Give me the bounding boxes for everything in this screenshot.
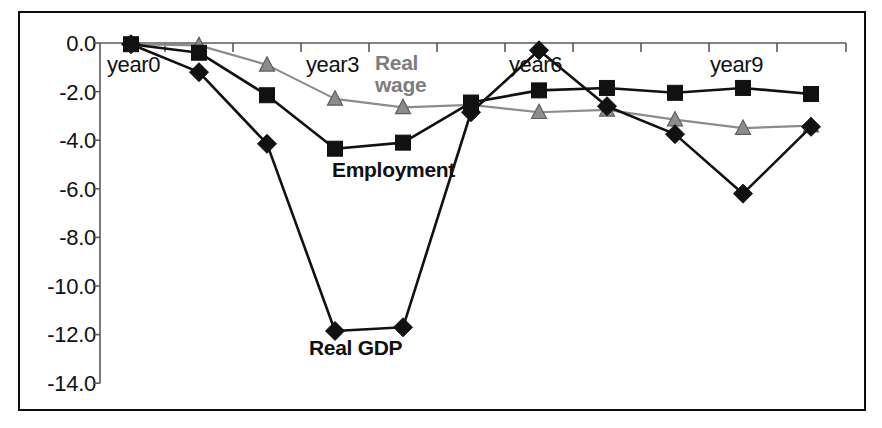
data-point-employment xyxy=(192,45,207,60)
data-point-real-gdp xyxy=(394,318,413,337)
data-point-employment xyxy=(600,80,615,95)
chart-figure: 0.0 -2.0 -4.0 -6.0 -8.0 -10.0 -12.0 -14.… xyxy=(0,0,882,428)
series-real-gdp xyxy=(122,35,821,341)
data-point-real-wage xyxy=(328,91,343,105)
data-point-employment xyxy=(396,135,411,150)
data-point-employment xyxy=(804,87,819,102)
data-point-employment xyxy=(328,141,343,156)
series-layer xyxy=(122,35,821,341)
axis-layer xyxy=(93,43,846,383)
data-point-employment xyxy=(532,83,547,98)
data-point-employment xyxy=(668,85,683,100)
data-point-employment xyxy=(736,80,751,95)
chart-plot-canvas xyxy=(0,0,882,428)
series-line-real-gdp xyxy=(131,44,811,331)
data-point-employment xyxy=(260,88,275,103)
data-point-real-gdp xyxy=(326,321,345,340)
